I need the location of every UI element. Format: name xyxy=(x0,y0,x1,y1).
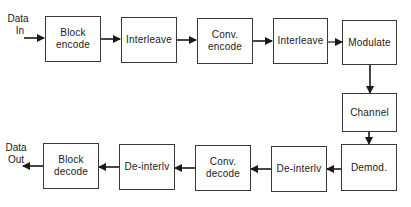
block-decode-line2: decode xyxy=(54,166,88,178)
block-decode-line1: Block xyxy=(54,154,88,166)
modulate-label: Modulate xyxy=(348,37,391,49)
conv-encode-box: Conv.encode xyxy=(197,18,253,64)
deinterlv-1-label: De-interlv xyxy=(277,163,322,175)
data-in-line1: Data xyxy=(4,13,32,25)
conv-encode-line1: Conv. xyxy=(208,29,242,41)
data-out-label: Data Out xyxy=(2,142,30,166)
deinterlv-1-box: De-interlv xyxy=(271,146,327,192)
conv-encode-line2: encode xyxy=(208,41,242,53)
block-decode-box: Blockdecode xyxy=(43,143,99,189)
conv-decode-box: Conv.decode xyxy=(195,145,251,191)
channel-box: Channel xyxy=(342,93,397,132)
deinterlv-2-label: De-interlv xyxy=(125,161,170,173)
data-out-line2: Out xyxy=(2,154,30,166)
data-out-line1: Data xyxy=(2,142,30,154)
data-in-line2: In xyxy=(8,25,32,37)
modulate-box: Modulate xyxy=(342,20,397,65)
conv-decode-line1: Conv. xyxy=(206,156,240,168)
data-in-label: Data In xyxy=(4,13,32,37)
deinterlv-2-box: De-interlv xyxy=(119,144,175,190)
block-encode-line2: encode xyxy=(56,39,90,51)
demod-box: Demod. xyxy=(341,144,397,191)
demod-label: Demod. xyxy=(351,162,387,174)
interleave-1-box: Interleave xyxy=(121,17,177,63)
interleave-1-label: Interleave xyxy=(126,34,172,46)
interleave-2-box: Interleave xyxy=(273,18,328,64)
channel-label: Channel xyxy=(350,107,389,119)
diagram-canvas: Data In Data Out Blockencode Interleave … xyxy=(0,0,411,207)
interleave-2-label: Interleave xyxy=(278,35,324,47)
block-encode-line1: Block xyxy=(56,27,90,39)
conv-decode-line2: decode xyxy=(206,168,240,180)
block-encode-box: Blockencode xyxy=(45,16,101,62)
